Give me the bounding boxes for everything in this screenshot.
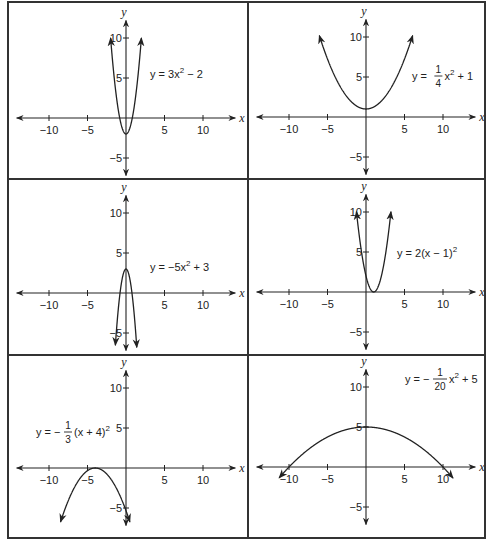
y-tick-label: −5 <box>349 501 362 513</box>
y-tick-label: 10 <box>350 381 362 393</box>
x-tick-label: 5 <box>401 473 407 485</box>
equation-label: y = − <box>405 373 429 385</box>
fraction-denominator: 20 <box>434 381 446 392</box>
x-tick-label: −5 <box>321 473 334 485</box>
fraction-numerator: 1 <box>437 367 443 378</box>
x-tick-label: 10 <box>437 473 449 485</box>
x-axis-label: x <box>478 460 485 474</box>
equation-rest: x2 + 5 <box>449 371 478 385</box>
graph-panel-6: −10−5510−5510xyy = −120x2 + 5 <box>0 0 493 543</box>
y-axis-label: y <box>360 354 367 368</box>
